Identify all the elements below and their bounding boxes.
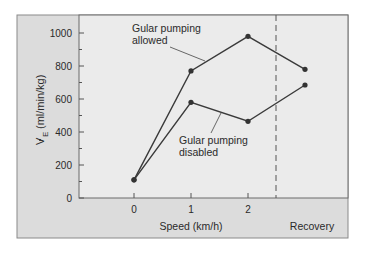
- data-point: [302, 67, 307, 72]
- chart-figure: 02004006008001000 V E (ml/min/kg) 012 Sp…: [0, 0, 367, 258]
- y-label-dot: [39, 139, 41, 141]
- data-point: [245, 34, 250, 39]
- x-tick-label: 1: [188, 204, 194, 215]
- annotation-disabled-line2: disabled: [179, 146, 218, 158]
- recovery-label: Recovery: [290, 220, 335, 232]
- data-point: [245, 119, 250, 124]
- data-point: [188, 100, 193, 105]
- x-tick-label: 0: [131, 204, 137, 215]
- x-tick-label: 2: [245, 204, 251, 215]
- y-tick-label: 200: [55, 160, 72, 171]
- annotation-allowed-line1: Gular pumping: [132, 22, 201, 34]
- annotation-disabled-line1: Gular pumping: [179, 134, 248, 146]
- y-label-units: (ml/min/kg): [34, 75, 46, 129]
- y-tick-label: 0: [66, 193, 72, 204]
- y-tick-label: 800: [55, 61, 72, 72]
- data-point: [131, 177, 136, 182]
- annotation-allowed-line2: allowed: [132, 34, 168, 46]
- y-tick-label: 400: [55, 127, 72, 138]
- data-point: [188, 68, 193, 73]
- y-tick-label: 600: [55, 94, 72, 105]
- plot-area: [79, 15, 348, 198]
- y-tick-label: 1000: [50, 28, 73, 39]
- data-point: [302, 82, 307, 87]
- y-label-sub: E: [41, 132, 50, 137]
- x-axis-label: Speed (km/h): [159, 220, 222, 232]
